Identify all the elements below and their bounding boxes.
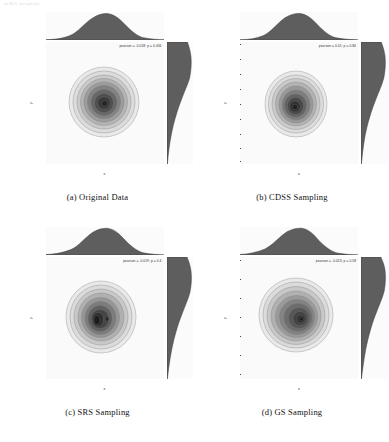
contour-levels-c [66,281,136,353]
xaxis-label-b: x [240,172,358,176]
contour-levels-a [69,67,139,137]
marginal-right-c [167,257,193,379]
contour-levels-b [265,71,327,137]
contour-levels-d [259,278,333,352]
marginal-right-b [361,42,387,164]
kde-path-top-b [240,13,358,40]
marginal-right-d [361,257,387,379]
panel-c: pearson = -0.019; p = 0.4 0.8 0.7 0.6 0.… [0,221,195,436]
panel-d: pearson = -0.013; p = 0.58 0.7 0.6 0.5 0… [195,221,389,436]
caption-b: (b) CDSS Sampling [195,192,389,202]
kde-path-top-d [240,228,358,255]
kde-path-right-b [361,42,385,164]
yaxis-label-d: y [223,317,227,319]
panel-a: pearson = -0.018; p = 0.056 0.8 0.7 0.6 … [0,6,195,221]
marginal-top-a [46,12,164,40]
yaxis-label-c: y [28,317,32,319]
caption-c: (c) SRS Sampling [0,407,195,417]
kde-path-top-c [46,228,164,255]
xaxis-label-d: x [240,387,358,391]
marginal-top-d [240,227,358,255]
pearson-annotation-a: pearson = -0.018; p = 0.056 [119,44,161,48]
marginal-right-a [167,42,193,164]
contour-plot-c: pearson = -0.019; p = 0.4 0.8 0.7 0.6 0.… [46,257,164,379]
kde-path-top-a [46,14,164,40]
panel-b: pearson = 0.01; p = 0.84 0.9 0.8 0.7 0.6… [195,6,389,221]
yaxis-label-b: y [223,102,227,104]
contour-plot-d: pearson = -0.013; p = 0.58 0.7 0.6 0.5 0… [240,257,358,379]
jointplot-c: pearson = -0.019; p = 0.4 0.8 0.7 0.6 0.… [22,227,174,397]
kde-path-right-d [361,257,385,379]
jointplot-b: pearson = 0.01; p = 0.84 0.9 0.8 0.7 0.6… [216,12,368,182]
kde-path-right-c [167,257,191,379]
pearson-annotation-c: pearson = -0.019; p = 0.4 [123,259,161,263]
contour-plot-b: pearson = 0.01; p = 0.84 0.9 0.8 0.7 0.6… [240,42,358,164]
jointplot-a: pearson = -0.018; p = 0.056 0.8 0.7 0.6 … [22,12,174,182]
yaxis-label-a: y [28,102,32,104]
marginal-top-c [46,227,164,255]
caption-a: (a) Original Data [0,192,195,202]
pearson-annotation-b: pearson = 0.01; p = 0.84 [319,44,356,48]
pearson-annotation-d: pearson = -0.013; p = 0.58 [316,259,356,263]
xaxis-label-c: x [46,387,164,391]
xaxis-label-a: x [46,172,164,176]
contour-plot-a: pearson = -0.018; p = 0.056 0.8 0.7 0.6 … [46,42,164,164]
kde-path-right-a [167,42,191,164]
marginal-top-b [240,12,358,40]
jointplot-d: pearson = -0.013; p = 0.58 0.7 0.6 0.5 0… [216,227,368,397]
caption-d: (d) GS Sampling [195,407,389,417]
figure-grid: pearson = -0.018; p = 0.056 0.8 0.7 0.6 … [0,6,389,442]
